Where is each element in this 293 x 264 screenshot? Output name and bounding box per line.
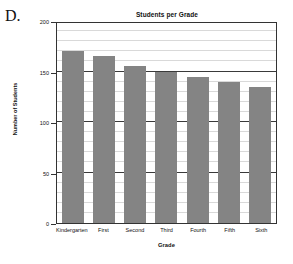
x-axis-tick-label: Third (151, 227, 183, 234)
y-axis-tick-label: 150 (26, 70, 49, 76)
x-axis-tick-label: First (88, 227, 120, 234)
bar-slot (182, 23, 213, 223)
y-axis-tick-label: 100 (26, 120, 49, 126)
bar-slot (88, 23, 119, 223)
y-axis-title: Number of Students (12, 69, 18, 149)
bar-series (57, 23, 276, 223)
x-axis-tick-label: Second (119, 227, 151, 234)
bar-slot (151, 23, 182, 223)
y-axis-tick-label: 0 (26, 221, 49, 227)
bar-second (124, 66, 146, 223)
figure-panel: D. Students per Grade 050100150200 Numbe… (0, 0, 293, 264)
y-axis-tick (51, 22, 56, 23)
y-axis-tick-label: 50 (26, 171, 49, 177)
bar-slot (213, 23, 244, 223)
bar-fourth (187, 77, 209, 223)
bar-slot (245, 23, 276, 223)
panel-letter: D. (5, 8, 21, 24)
bar-slot (57, 23, 88, 223)
plot-frame (56, 22, 277, 224)
bar-slot (120, 23, 151, 223)
bar-third (155, 72, 177, 224)
x-axis-title: Grade (56, 242, 277, 248)
y-axis-tick (51, 123, 56, 124)
y-axis-tick (51, 174, 56, 175)
chart-title: Students per Grade (56, 11, 278, 18)
y-axis-tick (51, 73, 56, 74)
x-axis-tick-label: Sixth (245, 227, 277, 234)
bar-sixth (249, 87, 271, 223)
bar-fifth (218, 82, 240, 223)
bar-first (93, 56, 115, 223)
x-axis-tick-label: Kindergarten (56, 227, 88, 234)
y-axis-tick-label: 200 (26, 19, 49, 25)
x-axis-tick-label: Fourth (182, 227, 214, 234)
x-axis-tick-labels: KindergartenFirstSecondThirdFourthFifthS… (56, 227, 277, 234)
y-axis-tick (51, 224, 56, 225)
bar-kindergarten (62, 51, 84, 223)
x-axis-tick-label: Fifth (214, 227, 246, 234)
plot-area (57, 23, 276, 223)
